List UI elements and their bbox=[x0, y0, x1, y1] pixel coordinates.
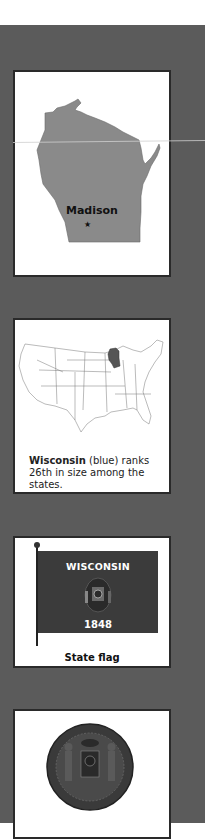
flag-pole-finial-icon bbox=[34, 542, 40, 548]
flag: WISCONSIN 1848 bbox=[38, 551, 158, 633]
caption-state-name: Wisconsin bbox=[29, 455, 86, 466]
state-flag-card: WISCONSIN 1848 State flag bbox=[13, 536, 171, 668]
state-seal-icon bbox=[15, 711, 169, 831]
flag-title-text: WISCONSIN bbox=[38, 561, 158, 572]
state-map-card: Madison ★ bbox=[13, 70, 171, 277]
state-seal-card bbox=[13, 709, 171, 839]
wisconsin-map bbox=[15, 72, 169, 275]
flag-year-text: 1848 bbox=[38, 619, 158, 630]
capital-star-icon: ★ bbox=[84, 220, 91, 229]
capital-label: Madison bbox=[66, 204, 118, 217]
wisconsin-shape bbox=[37, 99, 160, 242]
flag-caption: State flag bbox=[15, 652, 169, 663]
us-map-caption: Wisconsin (blue) ranks 26th in size amon… bbox=[29, 455, 164, 491]
us-map-card: Wisconsin (blue) ranks 26th in size amon… bbox=[13, 318, 171, 494]
flag-coat-of-arms-icon bbox=[80, 575, 116, 615]
us-map bbox=[15, 320, 169, 450]
